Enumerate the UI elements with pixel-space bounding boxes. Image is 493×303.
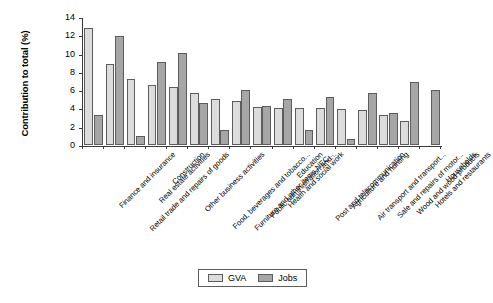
x-axis-tick [272,146,273,149]
bar-jobs [241,90,250,145]
bar-group [230,18,251,145]
y-axis-tick-label: 2 [70,122,75,133]
bar-jobs [136,136,145,145]
bar-jobs [262,106,271,145]
bar-group [146,18,167,145]
bar-group [251,18,272,145]
x-axis-tick [377,146,378,149]
legend-label-jobs: Jobs [278,273,297,283]
x-axis-tick [440,146,441,149]
y-axis-tick-label: 8 [70,67,75,78]
bar-jobs [368,93,377,145]
bar-group [83,18,104,145]
bar-jobs [431,90,440,145]
y-axis-tick-label: 4 [70,103,75,114]
x-axis-tick [82,146,83,149]
bar-gva [190,93,199,145]
bar-jobs [347,139,356,145]
bar-gva [400,121,409,145]
y-axis-tick-mark [79,109,82,110]
y-axis-tick: 14 [58,18,82,19]
bar-gva [253,107,262,145]
bar-gva [148,85,157,145]
x-axis-label: Air transport and transport... [375,150,447,222]
bar-gva [84,28,93,145]
bar-group [167,18,188,145]
bar-group [104,18,125,145]
y-axis-tick-mark [79,36,82,37]
x-axis-tick [208,146,209,149]
x-axis-tick [314,146,315,149]
bar-group [420,18,441,145]
bar-jobs [389,113,398,145]
x-axis-labels: Finance and insuranceRetail trade and re… [0,150,448,260]
y-axis-tick-mark [79,128,82,129]
x-axis-tick [335,146,336,149]
bar-gva [316,108,325,145]
x-axis-tick [250,146,251,149]
x-axis-tick [187,146,188,149]
bar-jobs [115,36,124,145]
bar-gva [106,64,115,145]
bar-group [294,18,315,145]
y-axis-tick-label: 14 [65,12,75,23]
bar-jobs [178,53,187,145]
bar-jobs [326,97,335,145]
bar-gva [232,101,241,145]
bar-gva [169,87,178,145]
y-axis-tick: 8 [58,73,82,74]
bar-gva [274,108,283,145]
y-axis-tick-mark [79,18,82,19]
y-axis-tick: 0 [58,146,82,147]
y-axis-tick-mark [79,55,82,56]
bar-group [336,18,357,145]
y-axis-tick-label: 6 [70,85,75,96]
bar-group [188,18,209,145]
plot-area: 02468101214 [82,18,442,146]
bar-jobs [283,99,292,145]
bar-jobs [220,130,229,145]
bar-gva [337,109,346,145]
bar-group [209,18,230,145]
x-axis-tick [419,146,420,149]
y-axis-tick-mark [79,73,82,74]
legend-entry-jobs: Jobs [258,273,297,283]
bar-jobs [410,82,419,145]
x-axis-tick [145,146,146,149]
bar-jobs [199,103,208,146]
legend-swatch-jobs [258,274,273,282]
x-axis-line [82,146,442,147]
y-axis-tick: 10 [58,55,82,56]
x-axis-tick [293,146,294,149]
bar-group [357,18,378,145]
bar-group [378,18,399,145]
y-axis-tick-label: 10 [65,49,75,60]
y-axis-tick: 4 [58,109,82,110]
bar-jobs [305,130,314,145]
bar-group [273,18,294,145]
legend-entry-gva: GVA [208,273,246,283]
legend: GVA Jobs [198,269,307,287]
x-axis-tick [124,146,125,149]
bar-group [125,18,146,145]
bar-jobs [94,115,103,145]
x-axis-label: Finance and insurance [117,150,177,210]
y-axis-tick: 2 [58,128,82,129]
y-axis-tick-label: 12 [65,30,75,41]
bar-group [399,18,420,145]
y-axis-tick-mark [79,91,82,92]
y-axis-title: Contribution to total (%) [19,14,30,154]
y-axis-tick: 6 [58,91,82,92]
bar-gva [127,79,136,145]
x-axis-tick [166,146,167,149]
legend-swatch-gva [208,274,223,282]
bar-group [315,18,336,145]
legend-label-gva: GVA [228,273,246,283]
bar-gva [211,99,220,145]
bar-gva [358,110,367,145]
x-axis-tick [398,146,399,149]
x-axis-tick [229,146,230,149]
bar-gva [295,108,304,145]
y-axis-tick: 12 [58,36,82,37]
